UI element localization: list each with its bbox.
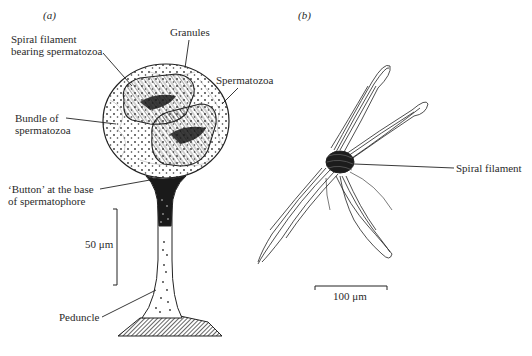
spermatophore-figure: (a) (b) Spiral filament bearing spermato… [0, 0, 532, 356]
arm-lower-right [336, 176, 392, 258]
label-scale-100um: 100 μm [333, 290, 367, 302]
label-peduncle: Peduncle [59, 311, 99, 323]
spiral-coil [326, 151, 354, 173]
panel-label-a: (a) [43, 9, 56, 21]
label-spiral-filament-line2: bearing spermatozoa [11, 45, 102, 57]
label-spiral-filament-line1: Spiral filament [11, 33, 77, 45]
arm-upper [331, 65, 390, 152]
base-mound [118, 316, 222, 336]
leader-spiral-filament [354, 164, 454, 168]
label-bundle-line2: spermatozoa [15, 124, 71, 136]
label-button-line2: of spermatophore [8, 195, 85, 207]
label-spiral-filament-b: Spiral filament [456, 162, 522, 174]
panel-label-b: (b) [298, 9, 311, 21]
spiral-filament-diagram [258, 65, 454, 290]
scale-bar-50um [113, 209, 117, 285]
label-granules: Granules [170, 26, 210, 38]
label-spermatozoa: Spermatozoa [216, 74, 273, 86]
label-bundle-line1: Bundle of [15, 112, 59, 124]
button-base [146, 176, 186, 226]
loose-threads [326, 172, 392, 210]
label-button-line1: ‘Button’ at the base [8, 183, 94, 195]
label-scale-50um: 50 μm [85, 238, 113, 250]
